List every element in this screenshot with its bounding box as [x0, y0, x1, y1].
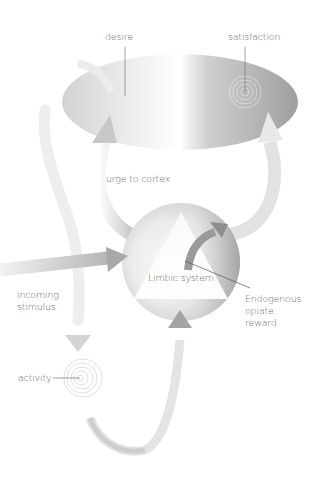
- limbic-system-label: Limbic system: [148, 272, 214, 284]
- satisfaction-arc-right: [225, 142, 275, 235]
- activity-arrowhead: [65, 335, 91, 352]
- opiate-reward-label: Endogenous opiate reward: [245, 293, 301, 329]
- return-loop: [90, 340, 180, 451]
- incoming-stimulus-label: incoming stimulus: [17, 289, 59, 313]
- urge-to-cortex-label: urge to cortex: [106, 173, 170, 185]
- diagram-canvas: [0, 0, 319, 481]
- activity-label: activity: [18, 372, 51, 384]
- desire-label: desire: [105, 31, 133, 43]
- satisfaction-label: satisfaction: [228, 31, 280, 43]
